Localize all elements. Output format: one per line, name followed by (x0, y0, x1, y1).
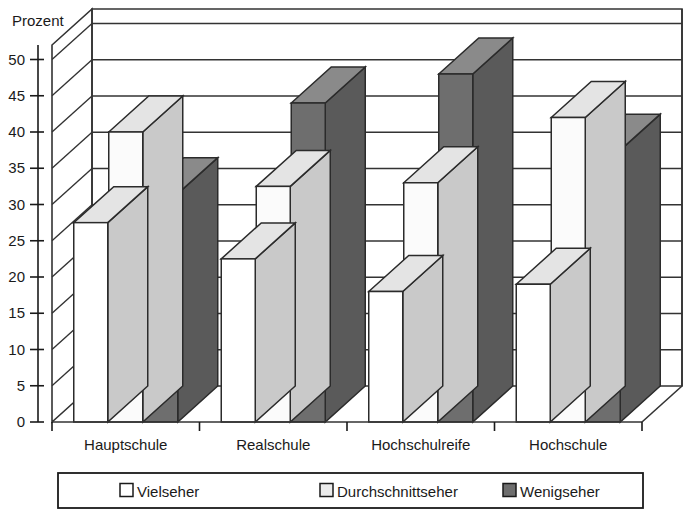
y-axis-ticks: 05101520253035404550 (8, 45, 44, 430)
legend-label-wenigseher: Wenigseher (520, 483, 600, 500)
chart-legend: VielseherDurchschnittseherWenigseher (58, 473, 643, 508)
y-tick-label-15: 15 (8, 304, 25, 321)
chart-container: Prozent 05101520253035404550 Hauptschule… (0, 0, 693, 519)
bar-front-face (74, 223, 108, 422)
bar-front-face (369, 292, 403, 423)
y-tick-label-45: 45 (8, 87, 25, 104)
y-tick-label-25: 25 (8, 232, 25, 249)
bar-side-face (325, 67, 365, 422)
bar-realschule-vielseher (221, 223, 295, 422)
x-category-label-hauptschule: Hauptschule (84, 436, 167, 453)
bar-front-face (516, 284, 550, 422)
bar-hauptschule-vielseher (74, 187, 148, 422)
bar-side-face (473, 38, 513, 422)
x-category-label-hochschule: Hochschule (529, 436, 607, 453)
legend-label-durchschnittseher: Durchschnittseher (337, 483, 458, 500)
bar-side-face (438, 147, 478, 422)
bar-side-face (143, 96, 183, 422)
y-tick-label-10: 10 (8, 341, 25, 358)
x-category-label-realschule: Realschule (236, 436, 310, 453)
y-tick-label-40: 40 (8, 123, 25, 140)
bar-front-face (221, 259, 255, 422)
legend-item-durchschnittseher[interactable]: Durchschnittseher (320, 483, 458, 500)
grid-line-side-40 (52, 96, 92, 132)
legend-swatch-vielseher (120, 484, 133, 497)
bar-side-face (585, 82, 625, 423)
bar-side-face (178, 158, 218, 422)
bar-side-face (108, 187, 148, 422)
x-category-label-hochschulreife: Hochschulreife (371, 436, 470, 453)
bar-side-face (620, 114, 660, 422)
y-tick-label-30: 30 (8, 196, 25, 213)
grid-line-side-45 (52, 60, 92, 96)
y-tick-label-35: 35 (8, 159, 25, 176)
legend-swatch-durchschnittseher (320, 484, 333, 497)
bar-hochschule-vielseher (516, 248, 590, 422)
y-tick-label-0: 0 (17, 413, 25, 430)
grid-line-side-35 (52, 132, 92, 168)
y-tick-label-50: 50 (8, 51, 25, 68)
y-axis-title: Prozent (12, 12, 65, 29)
y-tick-label-20: 20 (8, 268, 25, 285)
x-axis-categories: HauptschuleRealschuleHochschulreifeHochs… (84, 436, 607, 453)
y-tick-label-5: 5 (17, 377, 25, 394)
legend-item-vielseher[interactable]: Vielseher (120, 483, 199, 500)
bar-side-face (290, 150, 330, 422)
legend-label-vielseher: Vielseher (137, 483, 199, 500)
grid-line-side-30 (52, 169, 92, 205)
bar-chart-3d: Prozent 05101520253035404550 Hauptschule… (0, 0, 693, 519)
legend-swatch-wenigseher (503, 484, 516, 497)
